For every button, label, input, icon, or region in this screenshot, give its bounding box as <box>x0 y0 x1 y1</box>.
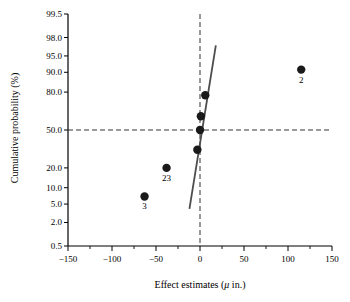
data-point <box>196 126 204 134</box>
x-tick-label: 50 <box>240 255 249 264</box>
data-point <box>297 65 305 73</box>
x-axis-title: Effect estimates (μ in.) <box>155 279 246 290</box>
y-tick-label: 95.0 <box>26 51 62 60</box>
x-axis-ticks <box>68 246 332 251</box>
x-tick-label: 100 <box>281 255 295 264</box>
x-tick-label: −50 <box>149 255 163 264</box>
y-tick-label: 2.0 <box>26 218 62 227</box>
data-point <box>197 112 205 120</box>
data-point-label: 2 <box>299 76 304 85</box>
y-tick-label: 0.5 <box>26 242 62 251</box>
y-tick-label: 80.0 <box>26 88 62 97</box>
data-point <box>201 91 209 99</box>
x-axis-title-prefix: Effect estimates ( <box>155 279 225 290</box>
y-tick-label: 99.5 <box>26 10 62 19</box>
data-point <box>162 164 170 172</box>
x-tick-label: 0 <box>198 255 203 264</box>
y-tick-label: 90.0 <box>26 68 62 77</box>
x-tick-label: −100 <box>103 255 122 264</box>
x-axis-title-suffix: in.) <box>229 279 245 290</box>
y-tick-label: 5.0 <box>26 200 62 209</box>
data-point-label: 3 <box>142 202 147 211</box>
y-tick-label: 10.0 <box>26 183 62 192</box>
x-tick-label: 150 <box>325 255 339 264</box>
y-tick-label: 50.0 <box>26 126 62 135</box>
x-tick-label: −150 <box>59 255 78 264</box>
data-point <box>140 192 148 200</box>
plot-canvas <box>0 0 350 302</box>
y-tick-label: 98.0 <box>26 33 62 42</box>
y-tick-label: 20.0 <box>26 163 62 172</box>
normal-probability-plot: 99.598.095.090.080.050.020.010.05.02.00.… <box>0 0 350 302</box>
data-point <box>193 146 201 154</box>
y-axis-title: Cumulative probability (%) <box>9 73 20 184</box>
data-point-label: 23 <box>162 174 171 183</box>
